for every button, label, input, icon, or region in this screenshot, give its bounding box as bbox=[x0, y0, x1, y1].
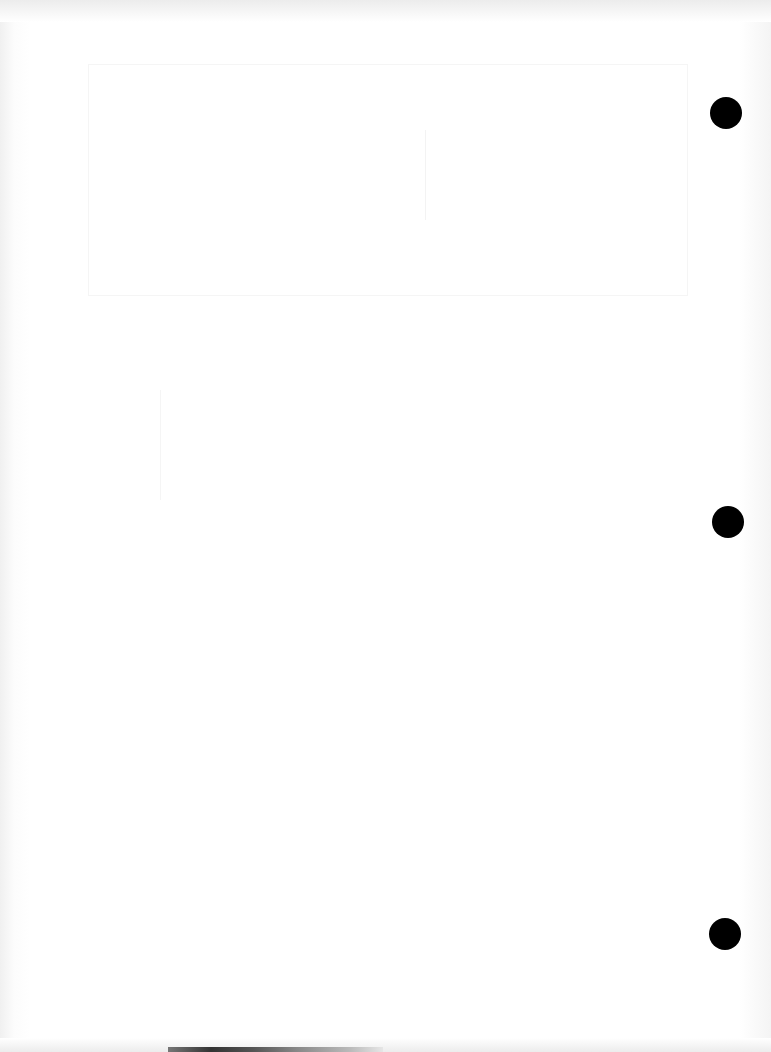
scanned-page bbox=[0, 0, 771, 1052]
bleed-through-mark bbox=[160, 390, 381, 500]
scan-bottom-shadow bbox=[0, 1038, 771, 1052]
scan-edge-artifact bbox=[168, 1047, 383, 1052]
punch-hole-middle bbox=[712, 506, 744, 538]
bleed-through-bracket bbox=[425, 130, 656, 220]
scan-top-shadow bbox=[0, 0, 771, 22]
punch-hole-top bbox=[710, 97, 742, 129]
punch-hole-bottom bbox=[709, 918, 741, 950]
